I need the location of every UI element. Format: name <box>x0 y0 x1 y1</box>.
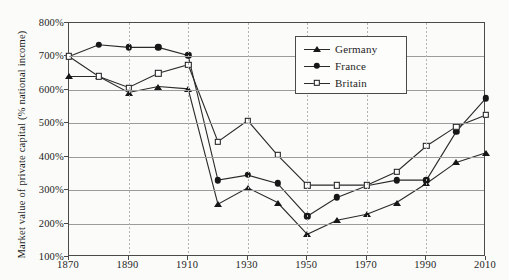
data-point-britain <box>96 73 102 79</box>
x-axis-tick-label: 2010 <box>474 259 496 270</box>
gridline-vertical <box>188 23 189 255</box>
legend: GermanyFranceBritain <box>295 36 407 94</box>
plot-area <box>68 22 485 256</box>
legend-label: France <box>335 60 366 72</box>
data-point-britain <box>155 70 161 76</box>
gridline-vertical <box>426 23 427 255</box>
series-line-britain <box>69 56 486 185</box>
legend-swatch-france-icon <box>304 60 330 72</box>
legend-item-germany[interactable]: Germany <box>304 41 377 57</box>
series-lines <box>69 23 486 257</box>
data-point-britain <box>483 112 489 118</box>
x-axis-tick-label: 1950 <box>295 259 317 270</box>
data-point-germany <box>214 201 222 207</box>
data-point-germany <box>274 200 282 206</box>
x-axis-tick-label: 1870 <box>57 259 79 270</box>
gridline-vertical <box>248 23 249 255</box>
legend-item-britain[interactable]: Britain <box>304 75 367 91</box>
legend-swatch-britain-icon <box>304 77 330 89</box>
x-axis-tick-label: 1910 <box>176 259 198 270</box>
y-axis-ticks <box>0 22 69 256</box>
gridline-horizontal <box>69 90 484 91</box>
data-point-britain <box>453 123 459 129</box>
data-point-france <box>483 95 489 101</box>
legend-item-france[interactable]: France <box>304 58 366 74</box>
x-axis-tick-labels: 18701890191019301950197019902010 <box>68 259 485 279</box>
gridline-vertical <box>129 23 130 255</box>
legend-marker-icon <box>313 46 321 52</box>
data-point-germany <box>154 84 162 90</box>
data-point-germany <box>333 217 341 223</box>
data-point-germany <box>393 200 401 206</box>
gridline-horizontal <box>69 224 484 225</box>
x-axis-tick-label: 1890 <box>116 259 138 270</box>
legend-label: Britain <box>335 77 367 89</box>
gridline-horizontal <box>69 157 484 158</box>
x-axis-tick-label: 1930 <box>236 259 258 270</box>
legend-marker-icon <box>314 63 320 69</box>
data-point-germany <box>482 150 490 156</box>
chart-figure: Market value of private capital (% natio… <box>0 0 509 280</box>
gridline-horizontal <box>69 56 484 57</box>
data-point-britain <box>334 182 340 188</box>
gridline-horizontal <box>69 123 484 124</box>
legend-swatch-germany-icon <box>304 43 330 55</box>
data-point-germany <box>65 73 73 79</box>
x-axis-tick-label: 1990 <box>414 259 436 270</box>
data-point-britain <box>393 169 399 175</box>
legend-label: Germany <box>335 43 377 55</box>
gridline-horizontal <box>69 190 484 191</box>
legend-marker-icon <box>314 80 320 86</box>
data-point-britain <box>215 138 221 144</box>
x-axis-tick-label: 1970 <box>355 259 377 270</box>
data-point-germany <box>452 159 460 165</box>
